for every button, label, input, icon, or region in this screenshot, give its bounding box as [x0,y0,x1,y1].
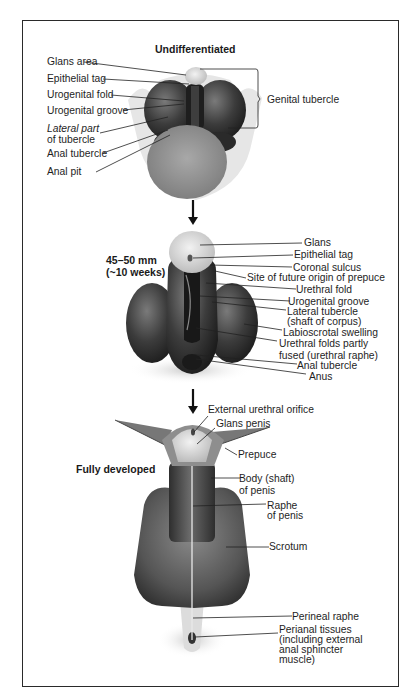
label-urethral-folds-partly: Urethral folds partly [279,338,368,349]
stage-title-fully-developed: Fully developed [76,463,155,475]
label-urogenital-groove: Urogenital groove [47,105,128,116]
label-anal-tubercle-2: Anal tubercle [297,360,357,371]
label-anal-pit: Anal pit [47,166,81,177]
stage-title-45-50mm: 45–50 mm [106,254,157,266]
label-scrotum: Scrotum [269,541,307,552]
label-perineal-raphe: Perineal raphe [292,611,359,622]
label-prepuce: Prepuce [238,449,276,460]
label-lateral-part: Lateral part [47,123,99,134]
label-anal-tubercle: Anal tubercle [47,148,107,159]
stage-title-10-weeks: (~10 weeks) [106,266,165,278]
label-of-penis: of penis [239,485,275,496]
label-epithelial-tag: Epithelial tag [47,73,106,84]
label-muscle: muscle) [279,654,315,665]
arrow-down-icon [188,389,198,414]
label-glans: Glans [304,237,331,248]
stage-title-undifferentiated: Undifferentiated [155,43,236,55]
label-external-urethral-orifice: External urethral orifice [208,404,314,415]
label-urethral-fold: Urethral fold [296,284,352,295]
label-glans-area: Glans area [47,56,97,67]
label-lateral-part-of-tubercle: of tubercle [47,134,95,145]
label-shaft-of-corpus: (shaft of corpus) [287,316,361,327]
label-body-shaft: Body (shaft) [239,473,295,484]
label-genital-tubercle: Genital tubercle [267,94,339,105]
label-labioscrotal-swelling: Labioscrotal swelling [283,327,378,338]
label-anus: Anus [309,371,332,382]
arrow-down-icon [188,200,198,225]
label-prepuce-site: Site of future origin of prepuce [247,272,385,283]
undifferentiated-illustration [128,67,262,200]
label-glans-penis: Glans penis [216,418,270,429]
label-urogenital-fold: Urogenital fold [47,89,113,100]
label-raphe-of-penis: of penis [267,510,303,521]
label-epithelial-tag-2: Epithelial tag [294,249,353,260]
